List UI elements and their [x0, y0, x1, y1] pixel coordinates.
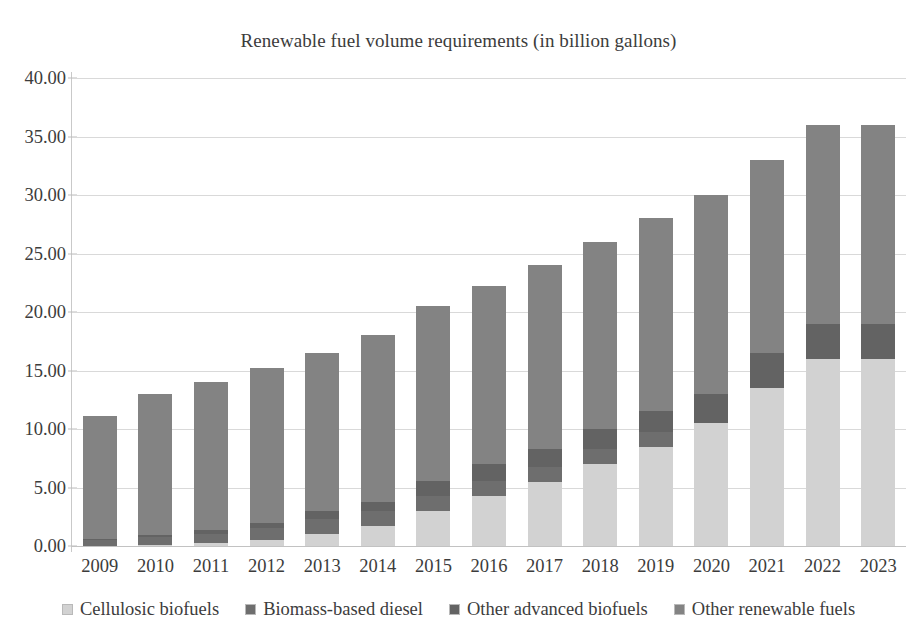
legend-item[interactable]: Cellulosic biofuels — [62, 599, 219, 620]
bar-segment[interactable] — [194, 530, 228, 534]
bar-segment[interactable] — [528, 467, 562, 482]
y-tick-label: 10.00 — [2, 419, 66, 440]
bar-segment[interactable] — [194, 534, 228, 543]
bar-2022[interactable] — [806, 78, 840, 546]
bar-segment[interactable] — [305, 519, 339, 534]
bar-segment[interactable] — [528, 482, 562, 546]
x-tick-label-2021: 2021 — [739, 556, 795, 577]
x-tick-label-2016: 2016 — [461, 556, 517, 577]
bar-2017[interactable] — [528, 78, 562, 546]
bar-segment[interactable] — [83, 416, 117, 539]
legend-swatch-icon — [62, 604, 73, 615]
bar-2018[interactable] — [583, 78, 617, 546]
bar-segment[interactable] — [83, 539, 117, 540]
legend-label: Biomass-based diesel — [263, 599, 423, 620]
bar-segment[interactable] — [861, 359, 895, 546]
bar-2023[interactable] — [861, 78, 895, 546]
bar-segment[interactable] — [305, 511, 339, 520]
bar-2013[interactable] — [305, 78, 339, 546]
legend-swatch-icon — [449, 604, 460, 615]
bar-segment[interactable] — [416, 511, 450, 546]
bar-2015[interactable] — [416, 78, 450, 546]
y-tick-label: 35.00 — [2, 126, 66, 147]
bar-segment[interactable] — [250, 368, 284, 522]
legend-item[interactable]: Other renewable fuels — [674, 599, 855, 620]
y-tick-label: 30.00 — [2, 185, 66, 206]
bar-segment[interactable] — [305, 534, 339, 546]
bar-segment[interactable] — [750, 353, 784, 388]
bar-segment[interactable] — [806, 359, 840, 546]
bar-segment[interactable] — [361, 511, 395, 526]
bar-segment[interactable] — [83, 540, 117, 546]
bar-segment[interactable] — [694, 423, 728, 546]
chart-title: Renewable fuel volume requirements (in b… — [0, 30, 917, 52]
bar-segment[interactable] — [472, 481, 506, 496]
bar-segment[interactable] — [472, 286, 506, 463]
x-tick-label-2019: 2019 — [628, 556, 684, 577]
bar-segment[interactable] — [694, 394, 728, 423]
bar-segment[interactable] — [138, 545, 172, 546]
gridline-0.00 — [72, 546, 906, 547]
chart-container: Renewable fuel volume requirements (in b… — [0, 0, 917, 626]
bar-segment[interactable] — [138, 394, 172, 535]
bar-segment[interactable] — [639, 447, 673, 546]
bar-segment[interactable] — [861, 324, 895, 359]
bar-segment[interactable] — [806, 324, 840, 359]
bar-2014[interactable] — [361, 78, 395, 546]
legend-label: Cellulosic biofuels — [80, 599, 219, 620]
bar-segment[interactable] — [583, 429, 617, 449]
bar-segment[interactable] — [361, 502, 395, 511]
bar-segment[interactable] — [639, 411, 673, 431]
bar-segment[interactable] — [472, 496, 506, 546]
bar-segment[interactable] — [528, 449, 562, 467]
bar-segment[interactable] — [138, 537, 172, 545]
y-tick-label: 0.00 — [2, 536, 66, 557]
bar-2016[interactable] — [472, 78, 506, 546]
bar-segment[interactable] — [194, 543, 228, 546]
bar-segment[interactable] — [250, 523, 284, 529]
plot-area — [72, 78, 906, 546]
y-tick-label: 20.00 — [2, 302, 66, 323]
x-tick-label-2010: 2010 — [128, 556, 184, 577]
bar-segment[interactable] — [639, 432, 673, 447]
bar-2009[interactable] — [83, 78, 117, 546]
bar-2010[interactable] — [138, 78, 172, 546]
bar-segment[interactable] — [583, 464, 617, 546]
bar-2021[interactable] — [750, 78, 784, 546]
y-tick-label: 25.00 — [2, 243, 66, 264]
legend-label: Other renewable fuels — [692, 599, 855, 620]
legend-item[interactable]: Biomass-based diesel — [245, 599, 423, 620]
y-axis-tick-labels: 40.0035.0030.0025.0020.0015.0010.005.000… — [0, 0, 66, 626]
bar-segment[interactable] — [639, 218, 673, 411]
bar-segment[interactable] — [750, 160, 784, 353]
bar-segment[interactable] — [194, 382, 228, 530]
bar-segment[interactable] — [472, 464, 506, 482]
bar-segment[interactable] — [250, 528, 284, 540]
bar-segment[interactable] — [361, 335, 395, 501]
x-tick-label-2017: 2017 — [517, 556, 573, 577]
bar-segment[interactable] — [806, 125, 840, 324]
bar-segment[interactable] — [416, 496, 450, 511]
x-tick-label-2013: 2013 — [294, 556, 350, 577]
bar-segment[interactable] — [750, 388, 784, 546]
bar-2011[interactable] — [194, 78, 228, 546]
bar-segment[interactable] — [694, 195, 728, 394]
bar-segment[interactable] — [583, 449, 617, 464]
bar-2020[interactable] — [694, 78, 728, 546]
bar-segment[interactable] — [361, 526, 395, 546]
bar-2019[interactable] — [639, 78, 673, 546]
y-tick-label: 40.00 — [2, 68, 66, 89]
x-axis-tick-labels: 2009201020112012201320142015201620172018… — [72, 556, 906, 586]
bar-segment[interactable] — [528, 265, 562, 449]
bar-segment[interactable] — [250, 540, 284, 546]
bar-segment[interactable] — [305, 353, 339, 511]
bar-segment[interactable] — [583, 242, 617, 429]
bar-segment[interactable] — [416, 481, 450, 496]
legend-swatch-icon — [674, 604, 685, 615]
x-tick-label-2014: 2014 — [350, 556, 406, 577]
bar-segment[interactable] — [861, 125, 895, 324]
legend-item[interactable]: Other advanced biofuels — [449, 599, 648, 620]
bar-segment[interactable] — [138, 535, 172, 537]
bar-2012[interactable] — [250, 78, 284, 546]
bar-segment[interactable] — [416, 306, 450, 481]
